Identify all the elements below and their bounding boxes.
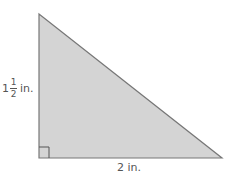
- height-label: 1 1 2 in.: [2, 78, 34, 99]
- height-fraction: 1 2: [10, 78, 17, 99]
- height-whole: 1: [2, 82, 9, 95]
- triangle-diagram: [0, 0, 236, 186]
- height-denominator: 2: [11, 90, 17, 99]
- right-triangle: [39, 14, 222, 158]
- height-numerator: 1: [11, 78, 17, 87]
- height-unit: in.: [20, 82, 34, 95]
- base-label: 2 in.: [117, 161, 141, 174]
